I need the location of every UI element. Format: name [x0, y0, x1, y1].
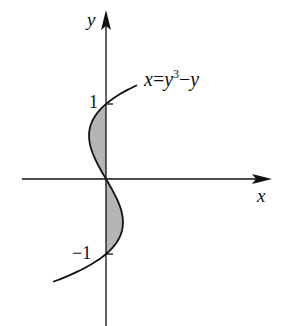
tick-label-1: 1 [89, 93, 98, 111]
shaded-region-lower [106, 179, 123, 254]
tick-label-minus-1: −1 [72, 244, 91, 262]
curve-equation: x=y3−y [144, 67, 199, 91]
shaded-region-upper [89, 104, 106, 179]
curve [53, 85, 137, 282]
x-axis-label: x [257, 186, 265, 205]
plot-area [0, 0, 288, 326]
y-axis-label: y [87, 10, 95, 29]
diagram: y x 1 −1 x=y3−y [0, 0, 288, 326]
